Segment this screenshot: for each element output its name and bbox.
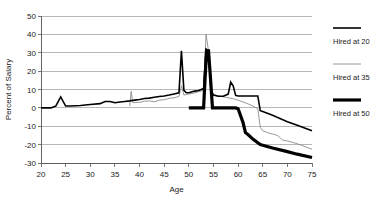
- x-tick-label: 40: [135, 170, 144, 179]
- salary-percent-line-chart: -30-20-1001020304050 2025303540455055606…: [0, 0, 388, 201]
- x-tick-label: 70: [283, 170, 292, 179]
- y-tick-label: -30: [24, 159, 36, 168]
- y-tick-label: 50: [27, 12, 36, 21]
- x-tick-label: 45: [160, 170, 169, 179]
- x-tick-label: 30: [86, 170, 95, 179]
- legend-label: Hired at 35: [333, 73, 370, 82]
- y-axis-title: Percent of Salary: [4, 59, 13, 120]
- x-tick-label: 75: [308, 170, 317, 179]
- y-tick-label: -20: [24, 141, 36, 150]
- y-tick-label: 10: [27, 86, 36, 95]
- y-tick-label: 0: [32, 104, 37, 113]
- x-tick-label: 20: [37, 170, 46, 179]
- y-tick-label: -10: [24, 122, 36, 131]
- chart-container: -30-20-1001020304050 2025303540455055606…: [0, 0, 388, 201]
- x-tick-label: 60: [234, 170, 243, 179]
- x-tick-label: 65: [258, 170, 267, 179]
- y-tick-labels-group: -30-20-1001020304050: [24, 12, 36, 168]
- legend-label: Hired at 50: [333, 109, 370, 118]
- legend-label: Hired at 20: [333, 37, 370, 46]
- x-tick-label: 35: [110, 170, 119, 179]
- x-tick-label: 55: [209, 170, 218, 179]
- x-axis-title: Age: [169, 185, 184, 194]
- x-tick-label: 25: [61, 170, 70, 179]
- y-tick-label: 40: [27, 30, 36, 39]
- y-tick-label: 20: [27, 67, 36, 76]
- x-tick-label: 50: [184, 170, 193, 179]
- y-tick-label: 30: [27, 49, 36, 58]
